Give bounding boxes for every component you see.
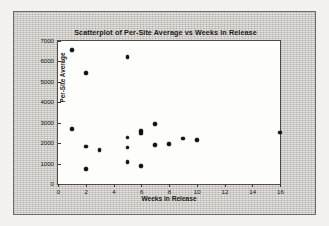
x-tick-label: 10 bbox=[189, 188, 206, 195]
y-tick-label: 6000 bbox=[40, 57, 54, 64]
x-tick-label: 4 bbox=[106, 188, 123, 195]
scatter-point bbox=[126, 160, 130, 164]
scatter-point bbox=[84, 71, 88, 75]
x-tick-label: 2 bbox=[78, 188, 95, 195]
x-tick-label: 8 bbox=[161, 188, 178, 195]
x-tick-mark bbox=[86, 184, 87, 187]
x-tick-mark bbox=[280, 184, 281, 187]
y-axis-title: Per-Site Average bbox=[59, 18, 66, 138]
scatter-point bbox=[84, 145, 88, 149]
y-tick-label: 1000 bbox=[40, 160, 54, 167]
x-tick-mark bbox=[252, 184, 253, 187]
x-tick-mark bbox=[169, 184, 170, 187]
x-tick-mark bbox=[197, 184, 198, 187]
x-axis-title: Weeks in Release bbox=[57, 195, 281, 202]
scatter-point bbox=[153, 143, 157, 147]
y-tick-label: 7000 bbox=[40, 37, 54, 44]
x-tick-mark bbox=[58, 184, 59, 187]
scatter-point bbox=[167, 142, 171, 146]
scatter-point bbox=[84, 167, 88, 171]
scatter-point bbox=[126, 136, 130, 140]
y-tick-label: 5000 bbox=[40, 78, 54, 85]
y-tick-mark bbox=[58, 164, 61, 165]
x-tick-label: 14 bbox=[244, 188, 261, 195]
y-tick-mark bbox=[58, 143, 61, 144]
scatter-point bbox=[153, 122, 157, 126]
scatter-point bbox=[126, 55, 130, 59]
y-tick-label: 2000 bbox=[40, 139, 54, 146]
y-tick-label: 0 bbox=[51, 180, 54, 187]
x-tick-label: 6 bbox=[133, 188, 150, 195]
scatter-point bbox=[181, 137, 185, 141]
scatter-point bbox=[139, 132, 143, 136]
scan-area: Scatterplot of Per-Site Average vs Weeks… bbox=[0, 0, 329, 226]
x-tick-mark bbox=[141, 184, 142, 187]
scatter-point bbox=[70, 127, 74, 131]
scatter-point bbox=[126, 146, 130, 150]
scatter-point bbox=[195, 138, 199, 142]
chart-figure-panel: Scatterplot of Per-Site Average vs Weeks… bbox=[13, 11, 316, 215]
y-tick-label: 4000 bbox=[40, 98, 54, 105]
x-tick-label: 0 bbox=[50, 188, 67, 195]
scatter-point bbox=[98, 148, 102, 152]
y-tick-label: 3000 bbox=[40, 119, 54, 126]
x-tick-label: 12 bbox=[217, 188, 234, 195]
scatter-point bbox=[70, 48, 74, 52]
plot-area: 01000200030004000500060007000 0246810121… bbox=[57, 40, 281, 185]
x-tick-mark bbox=[114, 184, 115, 187]
x-tick-mark bbox=[225, 184, 226, 187]
x-tick-label: 16 bbox=[272, 188, 289, 195]
scatter-point bbox=[278, 131, 282, 135]
scatter-point bbox=[139, 164, 143, 168]
